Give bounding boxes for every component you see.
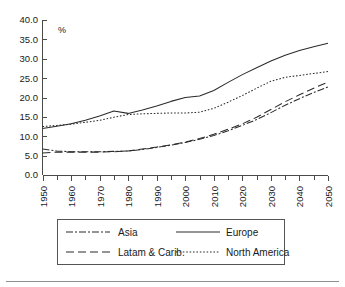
- chart-figure: 0.05.010.015.020.025.030.035.040.0 19501…: [0, 0, 345, 287]
- legend-label-europe: Europe: [226, 227, 259, 238]
- x-axis-tick-marks: [44, 176, 329, 182]
- x-tick-label: 1970: [95, 186, 106, 207]
- y-tick-label: 15.0: [20, 111, 39, 122]
- x-tick-label: 1990: [152, 186, 163, 207]
- x-tick-label: 2050: [323, 186, 334, 207]
- series-lines: [43, 43, 329, 153]
- x-tick-label: 2040: [294, 186, 305, 207]
- series-line-north-america: [43, 72, 329, 127]
- legend-label-latam-carib: Latam & Carib.: [118, 247, 185, 258]
- series-line-europe: [43, 43, 329, 128]
- legend-label-north-america: North America: [226, 247, 290, 258]
- series-line-asia: [43, 87, 329, 152]
- y-tick-label: 10.0: [20, 131, 39, 142]
- y-axis-tick-labels: 0.05.010.015.020.025.030.035.040.0: [20, 14, 39, 180]
- x-tick-label: 2010: [209, 186, 220, 207]
- y-tick-label: 0.0: [25, 169, 38, 180]
- line-chart: 0.05.010.015.020.025.030.035.040.0 19501…: [0, 0, 345, 287]
- y-tick-label: 30.0: [20, 53, 39, 64]
- y-tick-label: 35.0: [20, 34, 39, 45]
- x-tick-label: 2000: [180, 186, 191, 207]
- y-tick-label: 40.0: [20, 14, 39, 25]
- x-axis-tick-labels: 1950196019701980199020002010202020302040…: [38, 186, 334, 207]
- unit-label: %: [58, 25, 66, 35]
- legend-label-asia: Asia: [118, 227, 138, 238]
- x-tick-label: 1980: [123, 186, 134, 207]
- y-tick-label: 25.0: [20, 73, 39, 84]
- x-tick-label: 1960: [66, 186, 77, 207]
- legend: AsiaEuropeLatam & Carib.North America: [66, 227, 290, 258]
- x-tick-label: 1950: [38, 186, 49, 207]
- x-tick-label: 2020: [237, 186, 248, 207]
- y-tick-label: 20.0: [20, 92, 39, 103]
- x-tick-label: 2030: [266, 186, 277, 207]
- y-tick-label: 5.0: [25, 150, 38, 161]
